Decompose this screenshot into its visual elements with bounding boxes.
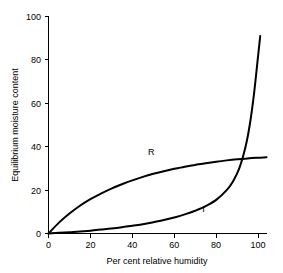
- x-tick-label-100: 100: [250, 240, 265, 250]
- chart-figure: 100 80 60 40 20 0 0 20 40 60 80 100 Per …: [0, 0, 283, 273]
- x-tick-label-60: 60: [169, 240, 179, 250]
- x-tick-label-20: 20: [85, 240, 95, 250]
- x-tick-label-40: 40: [127, 240, 137, 250]
- y-axis-ticks: [45, 17, 49, 234]
- y-tick-label-40: 40: [31, 142, 41, 152]
- curve-label-i: I: [202, 204, 205, 214]
- curve-i: [49, 36, 261, 233]
- y-tick-label-20: 20: [31, 186, 41, 196]
- x-axis-ticks: [49, 234, 259, 238]
- curve-label-r: R: [148, 147, 155, 157]
- x-axis-title: Per cent relative humidity: [106, 256, 208, 266]
- equilibrium-moisture-chart: 100 80 60 40 20 0 0 20 40 60 80 100 Per …: [0, 0, 283, 273]
- x-tick-label-80: 80: [211, 240, 221, 250]
- x-tick-label-0: 0: [46, 240, 51, 250]
- y-tick-label-100: 100: [26, 12, 41, 22]
- y-tick-label-60: 60: [31, 99, 41, 109]
- y-tick-label-80: 80: [31, 55, 41, 65]
- y-tick-label-0: 0: [36, 229, 41, 239]
- y-axis-title: Equilibrium moisture content: [10, 68, 20, 182]
